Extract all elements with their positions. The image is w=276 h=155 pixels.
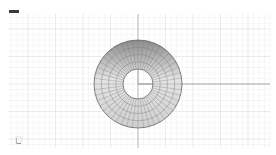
viewport-canvas[interactable] — [0, 0, 276, 155]
viewport-top[interactable]: Top — [0, 0, 276, 155]
world-axes-icon — [15, 136, 23, 145]
torus-mesh-object[interactable] — [94, 40, 182, 128]
